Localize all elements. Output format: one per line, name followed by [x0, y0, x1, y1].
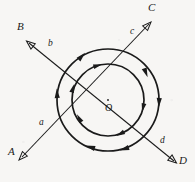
- conductor-line-AC: [22, 24, 149, 157]
- endpoint-label-C: C: [148, 2, 155, 13]
- segment-label-d: d: [160, 136, 165, 146]
- conductor-line-BD: [29, 43, 174, 161]
- segment-label-c: c: [130, 27, 134, 37]
- physics-diagram-figure: A B C D a b c d O: [0, 0, 195, 182]
- endpoint-label-D: D: [179, 155, 187, 166]
- endpoint-label-B: B: [17, 21, 24, 32]
- segment-label-a: a: [39, 118, 44, 128]
- segment-label-b: b: [48, 39, 53, 49]
- diagram-canvas: [0, 0, 195, 182]
- endpoint-label-A: A: [8, 146, 15, 157]
- center-label-O: O: [105, 103, 112, 113]
- center-point-marker: [107, 99, 109, 101]
